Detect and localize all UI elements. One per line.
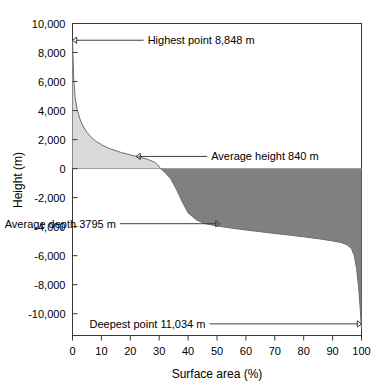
annotation-label-average-height: Average height 840 m: [211, 150, 318, 162]
y-tick-label: -6,000: [34, 250, 65, 262]
hypsographic-curve-chart: 10,0008,0006,0004,0002,0000-2,000-4,000-…: [0, 0, 380, 390]
y-axis-title: Height (m): [11, 152, 25, 208]
y-tick-label: -2,000: [34, 192, 65, 204]
x-tick-label: 80: [298, 345, 310, 357]
chart-svg: 10,0008,0006,0004,0002,0000-2,000-4,000-…: [0, 0, 380, 390]
x-tick-label: 30: [153, 345, 165, 357]
annotation-label-average-depth: Average depth 3795 m: [5, 218, 116, 230]
y-tick-label: 0: [59, 163, 65, 175]
y-tick-label: 6,000: [38, 76, 66, 88]
y-tick-label: 8,000: [38, 47, 66, 59]
x-tick-label: 60: [240, 345, 252, 357]
annotation-label-highest-point: Highest point 8,848 m: [148, 34, 255, 46]
y-tick-label: -10,000: [28, 308, 65, 320]
x-tick-label: 90: [326, 345, 338, 357]
x-tick-label: 70: [269, 345, 281, 357]
x-tick-label: 40: [182, 345, 194, 357]
y-tick-label: 4,000: [38, 105, 66, 117]
y-tick-label: 2,000: [38, 134, 66, 146]
x-tick-label: 50: [211, 345, 223, 357]
annotation-label-deepest-point: Deepest point 11,034 m: [89, 318, 205, 330]
x-tick-label: 0: [69, 345, 75, 357]
x-tick-label: 100: [352, 345, 370, 357]
x-axis-title: Surface area (%): [172, 367, 263, 381]
x-tick-label: 20: [124, 345, 136, 357]
y-tick-label: 10,000: [32, 18, 66, 30]
x-tick-label: 10: [95, 345, 107, 357]
y-tick-label: -8,000: [34, 279, 65, 291]
